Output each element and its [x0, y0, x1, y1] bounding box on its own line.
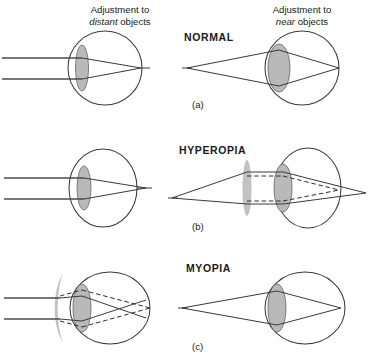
- myopic-eye-corrected: [4, 272, 150, 344]
- thin-lens: [274, 164, 292, 212]
- refracted-ray-lower: [82, 68, 141, 79]
- figure-canvas: .eyeball { fill:none; stroke:#3a3a3a; st…: [0, 0, 368, 364]
- near-ray-lower: [182, 308, 277, 325]
- object-ray-lower: [172, 198, 247, 204]
- emphasis-distant: distant: [89, 16, 117, 27]
- near-ray-upper: [182, 291, 277, 308]
- thin-relaxed-lens: [76, 45, 89, 91]
- refracted-ray-upper: [82, 58, 141, 68]
- myopic-eye-near: [178, 272, 345, 344]
- condition-label-myopia: MYOPIA: [186, 262, 231, 275]
- uncorrected-ray-lower: [283, 193, 366, 204]
- hyperopic-eye-uncorrected: [4, 149, 152, 227]
- condition-label-hyperopia: HYPEROPIA: [179, 144, 246, 157]
- condition-label-normal: NORMAL: [184, 31, 234, 44]
- panel-a-normal: [2, 31, 339, 105]
- normal-eye-distant: [2, 31, 150, 105]
- thin-lens: [77, 166, 91, 210]
- eye-accommodation-figure: .eyeball { fill:none; stroke:#3a3a3a; st…: [0, 0, 368, 364]
- caption-adjustment-near: Adjustment to near objects: [246, 4, 358, 27]
- refracted-ray-lower: [277, 308, 341, 325]
- refracted-ray-upper: [277, 291, 341, 308]
- panel-c-myopia: [4, 272, 345, 344]
- panel-letter-c: (c): [192, 341, 203, 353]
- emphasis-near: near: [276, 16, 295, 27]
- panel-letter-b: (b): [192, 221, 204, 233]
- convex-converging-lens: [243, 160, 252, 216]
- uncorrected-ray-upper: [283, 172, 366, 193]
- concave-diverging-lens: [55, 274, 63, 342]
- panel-letter-a: (a): [192, 99, 204, 111]
- caption-adjustment-distant: Adjustment to distant objects: [64, 4, 176, 27]
- hyperopic-eye-corrected: [168, 148, 366, 228]
- uncorrected-ray-upper: [82, 296, 146, 318]
- panel-b-hyperopia: [4, 148, 366, 228]
- object-ray-upper: [172, 172, 247, 198]
